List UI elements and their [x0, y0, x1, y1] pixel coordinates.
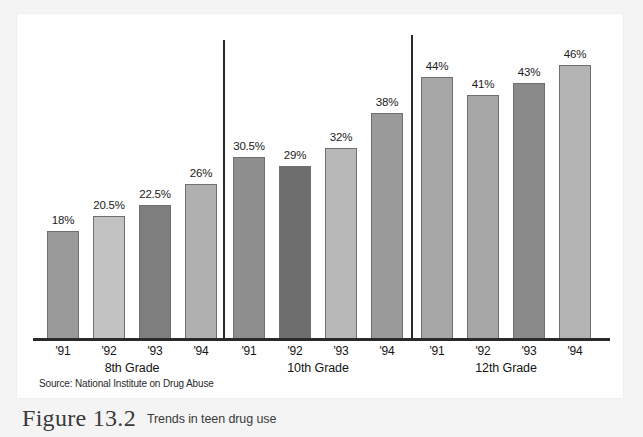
- group-label: 10th Grade: [248, 361, 388, 375]
- bar: [47, 231, 79, 338]
- bar: [467, 95, 499, 338]
- source-note: Source: National Institute on Drug Abuse: [39, 378, 214, 389]
- bar-value-label: 43%: [499, 66, 559, 78]
- figure-root: 18%20.5%22.5%26%30.5%29%32%38%44%41%43%4…: [0, 0, 643, 437]
- bar: [93, 216, 125, 338]
- bar: [279, 166, 311, 338]
- bar: [559, 65, 591, 338]
- chart-panel: 18%20.5%22.5%26%30.5%29%32%38%44%41%43%4…: [17, 14, 623, 398]
- bar-value-label: 22.5%: [125, 188, 185, 200]
- bar: [421, 77, 453, 338]
- group-divider: [223, 40, 225, 338]
- caption-text: Trends in teen drug use: [147, 412, 276, 426]
- x-tick-label: '94: [359, 344, 415, 358]
- bar-value-label: 26%: [171, 167, 231, 179]
- caption-number: Figure 13.2: [22, 405, 136, 432]
- bar: [139, 205, 171, 338]
- bar: [325, 148, 357, 338]
- plot-area: 18%20.5%22.5%26%30.5%29%32%38%44%41%43%4…: [17, 14, 623, 344]
- bar-value-label: 41%: [453, 78, 513, 90]
- bar-value-label: 46%: [545, 48, 605, 60]
- bar: [185, 184, 217, 338]
- bar: [233, 157, 265, 338]
- bar-value-label: 20.5%: [79, 199, 139, 211]
- bar: [371, 113, 403, 338]
- axis-baseline: [33, 338, 610, 341]
- bar-value-label: 29%: [265, 149, 325, 161]
- bar-value-label: 32%: [311, 131, 371, 143]
- bar-value-label: 18%: [33, 214, 93, 226]
- group-label: 8th Grade: [62, 361, 202, 375]
- group-label: 12th Grade: [436, 361, 576, 375]
- bar-value-label: 38%: [357, 96, 417, 108]
- figure-caption: Figure 13.2 Trends in teen drug use: [0, 400, 643, 437]
- group-divider: [411, 35, 413, 338]
- bar-value-label: 44%: [407, 60, 467, 72]
- x-tick-label: '94: [547, 344, 603, 358]
- bar: [513, 83, 545, 338]
